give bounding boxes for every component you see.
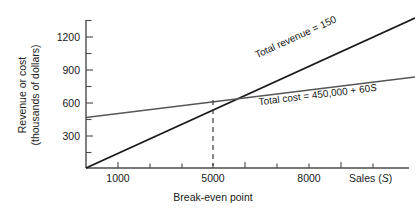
- annotation-total-cost: Total cost = 450,000 + 60S: [258, 82, 378, 107]
- x-axis-title-close: ): [389, 172, 393, 184]
- y-tick-label-1200: 1200: [57, 31, 81, 43]
- svg-text:Total cost = 450,000 + 60S: Total cost = 450,000 + 60S: [258, 82, 378, 107]
- x-axis-title-text: Sales (: [349, 172, 382, 184]
- annotation-total-revenue: Total revenue = 150: [253, 13, 338, 60]
- x-axis-title-symbol: S: [382, 172, 389, 184]
- y-axis-title-line1: Revenue or cost: [16, 57, 28, 134]
- y-axis-ticks: [86, 21, 93, 153]
- x-axis-ticks: [118, 162, 373, 168]
- svg-text:Total revenue = 150: Total revenue = 150: [253, 13, 338, 60]
- annotation-total-cost-text: Total cost = 450,000 + 60: [258, 83, 371, 108]
- x-tick-label-8000: 8000: [297, 172, 321, 184]
- y-tick-label-300: 300: [62, 130, 80, 142]
- x-tick-label-1000: 1000: [106, 172, 130, 184]
- x-tick-label-5000: 5000: [201, 172, 225, 184]
- y-axis-title-line2: (thousands of dollars): [29, 45, 41, 146]
- break-even-chart: 1200 900 600 300 1000 5000 8000: [0, 0, 415, 213]
- chart-plot-area: 1200 900 600 300 1000 5000 8000: [0, 0, 415, 213]
- annotation-total-cost-symbol: S: [369, 82, 377, 94]
- y-tick-label-900: 900: [62, 64, 80, 76]
- y-tick-label-600: 600: [62, 97, 80, 109]
- annotation-total-revenue-text: Total revenue = 150: [253, 13, 338, 60]
- breakeven-caption: Break-even point: [173, 191, 252, 203]
- x-axis-title: Sales (S): [349, 172, 392, 184]
